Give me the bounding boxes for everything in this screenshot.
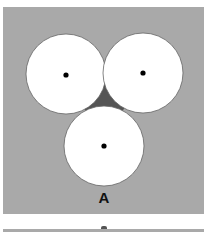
center-dot-icon — [140, 70, 145, 75]
center-dot-icon — [63, 72, 68, 77]
center-dot-icon — [101, 143, 106, 148]
circle-bottom — [64, 106, 144, 186]
circle-top-left — [26, 34, 106, 114]
figure-label: A — [0, 189, 208, 206]
next-panel-edge — [3, 229, 204, 232]
circle-top-right — [103, 33, 183, 113]
